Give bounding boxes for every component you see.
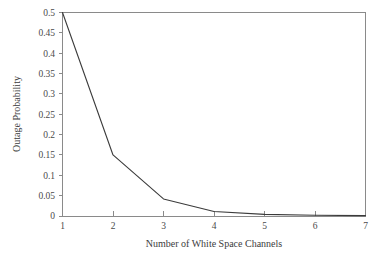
y-tickmarks — [59, 13, 63, 217]
x-tick-label: 1 — [60, 221, 65, 231]
y-tick-label: 0.15 — [38, 150, 55, 160]
x-tick-label: 6 — [313, 221, 318, 231]
y-tick-label: 0.2 — [43, 130, 55, 140]
y-tick-label: 0.25 — [38, 110, 55, 120]
y-tick-labels: 0 0.05 0.1 0.15 0.2 0.25 0.3 0.35 0.4 0.… — [38, 8, 55, 222]
line-chart: 0 0.05 0.1 0.15 0.2 0.25 0.3 0.35 0.4 0.… — [0, 0, 383, 262]
plot-frame — [63, 13, 366, 217]
x-tick-label: 3 — [161, 221, 166, 231]
data-series-line — [63, 13, 366, 216]
x-tick-label: 2 — [111, 221, 116, 231]
y-tick-label: 0.35 — [38, 69, 55, 79]
x-tick-label: 5 — [262, 221, 267, 231]
y-tick-label: 0.45 — [38, 28, 55, 38]
x-axis-title: Number of White Space Channels — [146, 238, 283, 249]
y-tick-label: 0.05 — [38, 191, 55, 201]
x-tick-labels: 1 2 3 4 5 6 7 — [60, 221, 368, 231]
y-axis-title: Outage Probability — [11, 76, 22, 152]
y-tick-label: 0.5 — [43, 8, 55, 18]
y-tick-label: 0.1 — [43, 171, 55, 181]
x-tick-label: 7 — [363, 221, 368, 231]
x-tick-label: 4 — [212, 221, 217, 231]
y-tick-label: 0 — [50, 211, 55, 221]
y-tick-label: 0.4 — [43, 49, 55, 59]
chart-figure: 0 0.05 0.1 0.15 0.2 0.25 0.3 0.35 0.4 0.… — [0, 0, 383, 262]
y-tick-label: 0.3 — [43, 89, 55, 99]
